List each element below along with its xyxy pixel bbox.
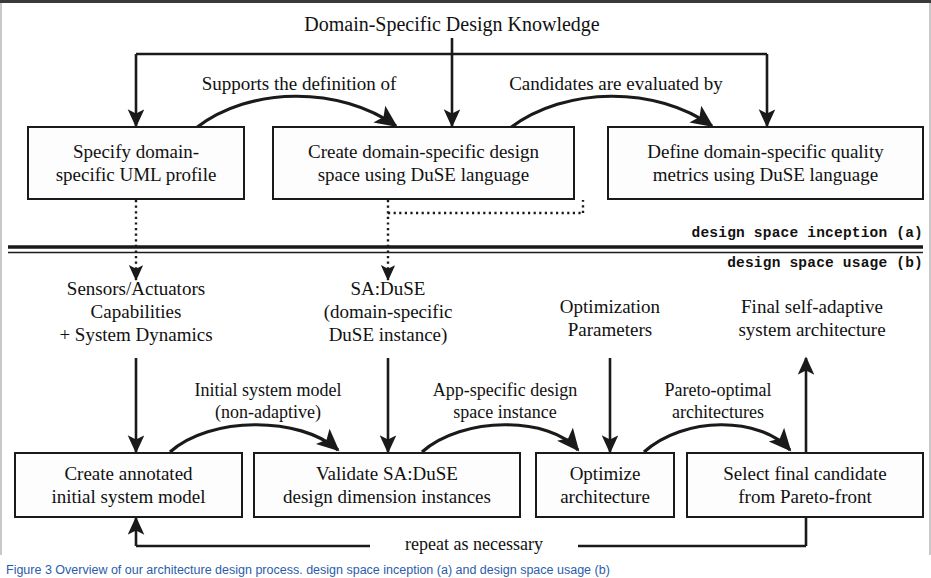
edge-candidates-evaluated	[510, 96, 712, 128]
node-define-quality-metrics-label: Define domain-specific quality metrics u…	[641, 140, 889, 186]
figure-root: Domain-Specific Design Knowledge Support…	[0, 0, 931, 578]
edge-label-supports: Supports the definition of	[156, 73, 442, 96]
node-create-design-space-label: Create domain-specific design space usin…	[302, 140, 545, 186]
figure-caption: Figure 3 Overview of our architecture de…	[6, 563, 926, 577]
node-specify-uml-profile[interactable]: Specify domain- specific UML profile	[27, 126, 245, 200]
label-sa-duse: SA:DuSE (domain-specific DuSE instance)	[268, 278, 508, 346]
node-create-annotated-model[interactable]: Create annotated initial system model	[14, 452, 243, 518]
node-optimize-architecture-label: Optimize architecture	[554, 462, 656, 508]
label-final-architecture: Final self-adaptive system architecture	[698, 296, 926, 342]
edge-initial-system-model	[170, 425, 338, 452]
divider-label-inception: design space inception (a)	[603, 225, 923, 242]
node-validate-sa-duse-label: Validate SA:DuSE design dimension instan…	[277, 462, 497, 508]
phase-divider	[8, 247, 923, 253]
node-create-design-space[interactable]: Create domain-specific design space usin…	[272, 126, 575, 200]
node-define-quality-metrics[interactable]: Define domain-specific quality metrics u…	[607, 126, 924, 200]
node-select-final-candidate-label: Select final candidate from Pareto-front	[717, 462, 893, 508]
edge-label-app-specific-instance: App-specific design space instance	[400, 380, 610, 423]
node-validate-sa-duse[interactable]: Validate SA:DuSE design dimension instan…	[253, 452, 521, 518]
edge-app-specific-instance	[422, 425, 578, 452]
edge-label-pareto-optimal: Pareto-optimal architectures	[624, 380, 812, 423]
figure-title: Domain-Specific Design Knowledge	[216, 12, 688, 36]
node-optimize-architecture[interactable]: Optimize architecture	[535, 452, 675, 518]
node-create-annotated-model-label: Create annotated initial system model	[45, 462, 211, 508]
edge-pareto-optimal	[644, 425, 790, 452]
edge-supports-definition	[196, 96, 396, 128]
divider-label-usage: design space usage (b)	[603, 255, 923, 272]
edge-label-initial-system-model: Initial system model (non-adaptive)	[152, 380, 384, 423]
edge-label-candidates: Candidates are evaluated by	[466, 73, 766, 96]
node-select-final-candidate[interactable]: Select final candidate from Pareto-front	[686, 452, 924, 518]
label-optimization-parameters: Optimization Parameters	[510, 296, 710, 342]
node-specify-uml-profile-label: Specify domain- specific UML profile	[50, 140, 223, 186]
label-sensors-actuators: Sensors/Actuators Capabilities + System …	[6, 278, 266, 346]
label-repeat-as-necessary: repeat as necessary	[370, 534, 578, 556]
